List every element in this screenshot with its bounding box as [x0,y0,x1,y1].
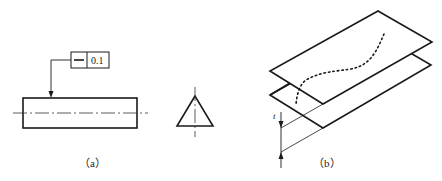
caption-a: （a） [79,157,106,169]
tolerance-frame: 0.1 [71,52,109,68]
triangle-end-view [177,87,213,137]
leader-arrow [49,60,72,98]
dimension-label-t: t [273,111,276,121]
caption-b: （b） [313,157,341,169]
dimension-arrow-up-icon [279,152,284,159]
tolerance-value: 0.1 [91,55,104,66]
figure-b: t （b） [270,11,432,169]
figure-a: 0.1 （a） [13,52,213,169]
extension-line-bottom [281,128,323,152]
diagram-canvas: 0.1 （a） t （b） [0,0,442,181]
